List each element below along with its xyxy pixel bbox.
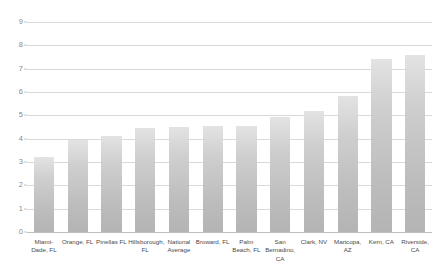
y-axis-tick-label: 1: [19, 205, 23, 213]
y-axis-tick-label: 5: [19, 112, 23, 120]
bar: [304, 111, 324, 232]
x-axis-category-label: San Bernadino, CA: [263, 238, 297, 263]
y-axis-tick-label: 0: [19, 228, 23, 236]
y-axis-tick-label: 2: [19, 182, 23, 190]
y-axis-tick-label: 8: [19, 42, 23, 50]
bar: [405, 55, 425, 232]
y-axis-tick-label: 7: [19, 65, 23, 73]
bar: [236, 126, 256, 232]
x-axis-category-label: Orange, FL: [61, 238, 95, 246]
bar: [101, 136, 121, 232]
x-axis-category-label: National Average: [162, 238, 196, 255]
x-axis-category-label: Maricopa, AZ: [331, 238, 365, 255]
x-axis-category-label: Kern, CA: [365, 238, 399, 246]
bar: [338, 96, 358, 233]
y-axis-tick-label: 6: [19, 88, 23, 96]
bar-series: [27, 18, 432, 236]
y-axis: 0123456789: [0, 18, 27, 236]
bar: [203, 126, 223, 232]
y-axis-tick-label: 4: [19, 135, 23, 143]
bar: [270, 117, 290, 233]
y-axis-tick-label: 3: [19, 158, 23, 166]
x-axis-labels: Miami-Dade, FLOrange, FLPinellas FLHills…: [27, 238, 432, 275]
bar-chart: 0123456789 Miami-Dade, FLOrange, FLPinel…: [0, 0, 436, 275]
bar: [34, 157, 54, 232]
plot-area: [27, 18, 432, 236]
x-axis-category-label: Palm Beach, FL: [230, 238, 264, 255]
x-axis-category-label: Clark, NV: [297, 238, 331, 246]
bar: [135, 128, 155, 232]
x-axis-category-label: Pinellas FL: [95, 238, 129, 246]
x-axis-category-label: Miami-Dade, FL: [27, 238, 61, 255]
bar: [371, 59, 391, 232]
x-axis-category-label: Riverside, CA: [398, 238, 432, 255]
bar: [169, 127, 189, 232]
x-axis-category-label: Hillsborough, FL: [128, 238, 162, 255]
x-axis-category-label: Broward, FL: [196, 238, 230, 246]
bar: [68, 140, 88, 232]
y-axis-tick-label: 9: [19, 18, 23, 26]
